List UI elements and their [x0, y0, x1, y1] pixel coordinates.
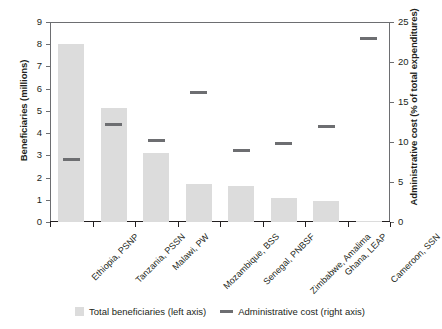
admin-cost-marker: [360, 37, 377, 40]
bar: [271, 198, 297, 222]
x-tick: [305, 222, 306, 227]
y-tick-right: [390, 62, 394, 63]
admin-cost-marker: [233, 149, 250, 152]
y-tick-left: [46, 89, 50, 90]
admin-cost-marker: [105, 123, 122, 126]
y-ticklabel-left: 8: [20, 38, 42, 49]
x-tick: [348, 222, 349, 227]
legend-label-admin-cost: Administrative cost (right axis): [238, 306, 365, 317]
x-tick: [50, 222, 51, 227]
y-tick-left: [46, 22, 50, 23]
admin-cost-marker: [63, 158, 80, 161]
axis-line-right: [389, 22, 390, 222]
y-tick-right: [390, 102, 394, 103]
y-ticklabel-left: 3: [20, 149, 42, 160]
chart-legend: Total beneficiaries (left axis) Administ…: [0, 306, 440, 317]
admin-cost-marker: [275, 142, 292, 145]
y-ticklabel-left: 2: [20, 172, 42, 183]
x-tick: [135, 222, 136, 227]
y-tick-left: [46, 178, 50, 179]
y-ticklabel-right: 5: [398, 176, 420, 187]
x-tick: [178, 222, 179, 227]
admin-cost-marker: [190, 91, 207, 94]
y-tick-right: [390, 142, 394, 143]
bar: [58, 44, 84, 222]
x-tick: [220, 222, 221, 227]
y-tick-left: [46, 200, 50, 201]
y-tick-left: [46, 66, 50, 67]
x-category-label: Cameroon, SSN: [388, 231, 441, 284]
bar: [356, 221, 382, 222]
y-tick-right: [390, 22, 394, 23]
bar: [186, 184, 212, 222]
y-ticklabel-right: 25: [398, 16, 420, 27]
legend-item-beneficiaries: Total beneficiaries (left axis): [75, 306, 206, 317]
bar: [313, 201, 339, 222]
x-tick: [93, 222, 94, 227]
bar: [143, 153, 169, 222]
x-tick: [263, 222, 264, 227]
y-tick-left: [46, 44, 50, 45]
legend-item-admin-cost: Administrative cost (right axis): [220, 306, 365, 317]
y-ticklabel-left: 4: [20, 127, 42, 138]
y-tick-left: [46, 155, 50, 156]
axis-line-left: [50, 22, 51, 222]
x-category-label: Ethiopia, PSNP: [90, 231, 141, 282]
y-ticklabel-left: 7: [20, 60, 42, 71]
x-tick: [390, 222, 391, 227]
line-swatch-icon: [220, 310, 233, 313]
y-ticklabel-left: 0: [20, 216, 42, 227]
y-ticklabel-left: 9: [20, 16, 42, 27]
y-tick-right: [390, 182, 394, 183]
y-ticklabel-right: 0: [398, 216, 420, 227]
y-ticklabel-left: 6: [20, 83, 42, 94]
y-tick-left: [46, 111, 50, 112]
y-ticklabel-right: 15: [398, 96, 420, 107]
admin-cost-marker: [318, 125, 335, 128]
y-ticklabel-left: 5: [20, 105, 42, 116]
y-ticklabel-right: 20: [398, 56, 420, 67]
legend-label-beneficiaries: Total beneficiaries (left axis): [89, 306, 206, 317]
y-ticklabel-left: 1: [20, 194, 42, 205]
y-ticklabel-right: 10: [398, 136, 420, 147]
y-tick-left: [46, 133, 50, 134]
bar: [228, 186, 254, 222]
bar-swatch-icon: [75, 307, 84, 316]
axis-line-top: [50, 22, 390, 23]
plot-area: 0123456789 0510152025: [50, 22, 390, 222]
admin-cost-marker: [148, 139, 165, 142]
